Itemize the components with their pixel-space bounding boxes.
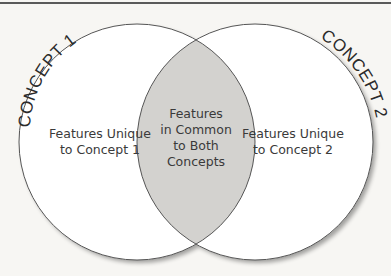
venn-diagram: CONCEPT 1 CONCEPT 2 Features Unique to C… [0,0,391,276]
concept-2-unique-label: Features Unique to Concept 2 [218,126,368,158]
